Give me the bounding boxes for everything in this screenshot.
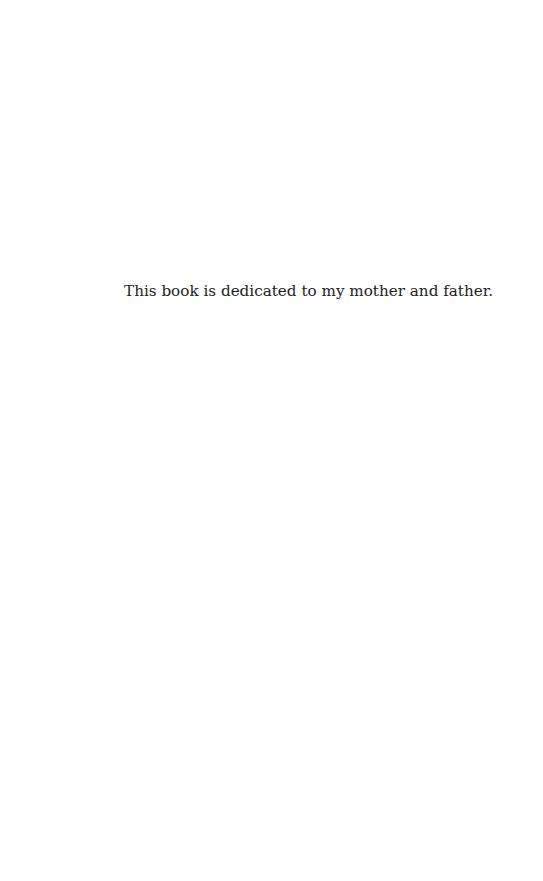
document-page: This book is dedicated to my mother and … <box>0 0 543 881</box>
dedication-text: This book is dedicated to my mother and … <box>124 281 424 301</box>
